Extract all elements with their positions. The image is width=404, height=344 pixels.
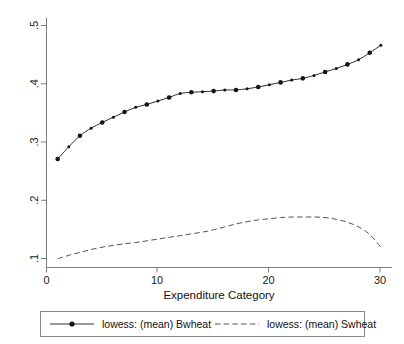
x-tick-group: 0 10 20 30 <box>43 268 386 287</box>
data-point-marker <box>278 80 283 85</box>
data-point-marker <box>201 90 204 93</box>
data-point-marker <box>211 89 216 94</box>
x-tick-label-0: 0 <box>43 274 49 286</box>
data-point-marker <box>167 95 172 100</box>
data-point-marker <box>301 76 306 81</box>
x-tick-label-20: 20 <box>262 274 274 286</box>
data-point-marker <box>345 62 350 67</box>
legend: lowess: (mean) Bwheat lowess: (mean) Swh… <box>41 312 377 337</box>
data-point-marker <box>357 58 360 61</box>
x-tick-label-30: 30 <box>374 274 386 286</box>
legend-label-bwheat: lowess: (mean) Bwheat <box>102 318 211 330</box>
data-point-marker <box>268 83 271 86</box>
data-point-marker <box>323 70 328 75</box>
axis-group <box>47 18 393 268</box>
series-line-bwheat <box>58 45 381 159</box>
data-point-marker <box>312 74 315 77</box>
series-line-swheat <box>58 217 381 259</box>
data-point-marker <box>145 102 150 107</box>
y-tick-label-1: .1 <box>28 254 40 263</box>
data-point-marker <box>179 92 182 95</box>
data-point-marker <box>234 88 239 93</box>
series-markers-bwheat <box>55 44 382 162</box>
chart-figure: .5 .4 .3 .2 .1 0 10 20 30 Expenditure Ca… <box>0 0 404 344</box>
data-point-marker <box>367 51 372 56</box>
legend-label-swheat: lowess: (mean) Swheat <box>267 318 376 330</box>
legend-swatch-marker-bwheat <box>69 321 74 326</box>
data-point-marker <box>290 79 293 82</box>
y-tick-label-3: .3 <box>28 137 40 146</box>
x-axis-title: Expenditure Category <box>163 289 274 301</box>
data-point-marker <box>189 90 194 95</box>
data-point-marker <box>134 106 137 109</box>
data-point-marker <box>246 87 249 90</box>
data-point-marker <box>112 116 115 119</box>
data-point-marker <box>90 127 93 130</box>
data-point-marker <box>156 99 159 102</box>
data-point-marker <box>223 88 226 91</box>
data-point-marker <box>67 145 70 148</box>
data-point-marker <box>379 44 382 47</box>
lowess-plot: .5 .4 .3 .2 .1 0 10 20 30 Expenditure Ca… <box>0 0 404 344</box>
data-point-marker <box>335 67 338 70</box>
data-point-marker <box>122 110 127 115</box>
y-tick-label-2: .2 <box>28 196 40 205</box>
data-point-marker <box>78 133 83 138</box>
data-point-marker <box>55 157 60 162</box>
data-point-marker <box>256 85 261 90</box>
y-tick-group: .5 .4 .3 .2 .1 <box>28 21 47 263</box>
y-tick-label-4: .4 <box>28 79 40 88</box>
data-point-marker <box>100 120 105 125</box>
y-tick-label-5: .5 <box>28 21 40 30</box>
x-tick-label-10: 10 <box>151 274 163 286</box>
